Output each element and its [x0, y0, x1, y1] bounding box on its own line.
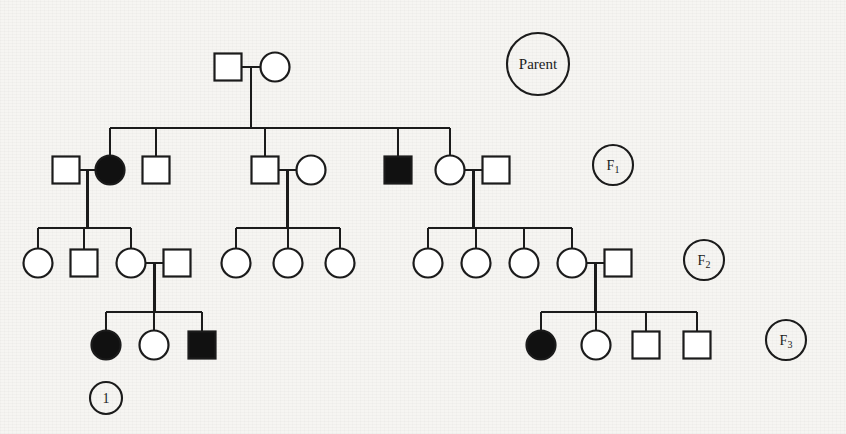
- individual-unaffected-female-e1[interactable]: [222, 249, 251, 278]
- individual-unaffected-male-d4[interactable]: [164, 250, 191, 277]
- connector-lines: [38, 67, 697, 334]
- pedigree-svg: ParentF1F2F31: [0, 0, 846, 434]
- individual-unaffected-female-e2[interactable]: [274, 249, 303, 278]
- generation-label-text-f1: F1: [607, 158, 620, 175]
- annotation-text-marker-1: 1: [103, 391, 110, 406]
- generation-label-text-f2: F2: [698, 253, 711, 270]
- individual-unaffected-female-e3[interactable]: [326, 249, 355, 278]
- individual-unaffected-male-b1[interactable]: [252, 157, 279, 184]
- individual-affected-male-g3[interactable]: [189, 332, 216, 359]
- individual-affected-female-g1[interactable]: [92, 331, 121, 360]
- individual-unaffected-male-h4[interactable]: [684, 332, 711, 359]
- individual-unaffected-male-a3[interactable]: [143, 157, 170, 184]
- individual-unaffected-female-b2[interactable]: [297, 156, 326, 185]
- individual-unaffected-female-f3c[interactable]: [510, 249, 539, 278]
- individual-unaffected-male-p1[interactable]: [215, 54, 242, 81]
- individual-affected-female-a2[interactable]: [96, 156, 125, 185]
- individual-unaffected-female-h2[interactable]: [582, 331, 611, 360]
- generation-label-text-f3: F3: [780, 333, 793, 350]
- individual-unaffected-female-p2[interactable]: [261, 53, 290, 82]
- individual-unaffected-female-d3[interactable]: [117, 249, 146, 278]
- individual-unaffected-female-f2c[interactable]: [462, 249, 491, 278]
- generation-label-text-parent: Parent: [519, 56, 558, 72]
- individual-unaffected-male-h3[interactable]: [633, 332, 660, 359]
- pedigree-chart: ParentF1F2F31: [0, 0, 846, 434]
- individual-unaffected-male-d2[interactable]: [71, 250, 98, 277]
- individual-symbols: [24, 53, 711, 360]
- individual-unaffected-male-f5s[interactable]: [605, 250, 632, 277]
- individual-unaffected-male-a1[interactable]: [53, 157, 80, 184]
- individual-affected-male-c1[interactable]: [385, 157, 412, 184]
- individual-unaffected-female-f1c[interactable]: [414, 249, 443, 278]
- individual-unaffected-male-c3[interactable]: [483, 157, 510, 184]
- individual-unaffected-female-g2[interactable]: [140, 331, 169, 360]
- individual-unaffected-female-f4c[interactable]: [558, 249, 587, 278]
- individual-unaffected-female-d1[interactable]: [24, 249, 53, 278]
- individual-affected-female-h1[interactable]: [527, 331, 556, 360]
- individual-unaffected-female-c2[interactable]: [436, 156, 465, 185]
